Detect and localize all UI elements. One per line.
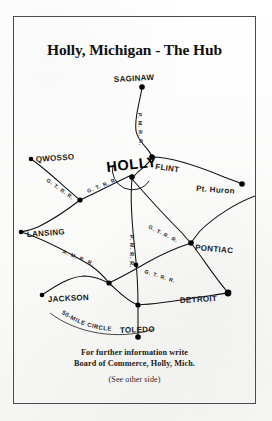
- rr-label-pm-holly-south: P. M. R. R.: [129, 235, 135, 268]
- junction-owosso-lansing: [77, 197, 82, 202]
- fifty-mile-circle-label: 50-MILE CIRCLE: [61, 309, 112, 332]
- city-label-toledo: TOLEDO: [120, 325, 155, 335]
- city-label-owosso: QWOSSO: [36, 152, 75, 164]
- city-labels: SAGINAW FLINT Pt. Huron QWOSSO LANSING P…: [27, 73, 236, 335]
- junction-mid-south: [106, 280, 111, 285]
- rail-junction-lansing: [21, 200, 80, 232]
- rr-label-gt-owosso: G. T. R. R.: [45, 177, 75, 201]
- junction-toledo-north: [135, 302, 140, 307]
- postcard-page: Holly, Michigan - The Hub: [0, 0, 272, 421]
- rr-label-gt-south-detroit: G. T. R. R.: [144, 268, 177, 284]
- rr-label-pm-saginaw-flint: P. M. R. R.: [137, 113, 144, 146]
- node-saginaw: [139, 84, 145, 90]
- node-holly: [129, 174, 135, 180]
- city-label-detroit: DETROIT: [180, 294, 218, 305]
- footer-block: For further information write Board of C…: [14, 347, 255, 385]
- map-drawing: SAGINAW FLINT Pt. Huron QWOSSO LANSING P…: [14, 65, 255, 343]
- node-detroit: [225, 290, 232, 297]
- city-label-saginaw: SAGINAW: [114, 73, 155, 84]
- rail-jackson-junction: [42, 276, 109, 295]
- node-pt-huron: [239, 181, 245, 187]
- node-toledo: [135, 334, 141, 340]
- footer-see-other-side: (See other side): [14, 374, 255, 385]
- rail-midsouth-pontiac: [109, 243, 191, 283]
- node-lansing: [19, 230, 24, 235]
- rail-pt-huron-pontiac: [191, 196, 255, 243]
- fifty-mile-circle-text: 50-MILE CIRCLE: [61, 309, 112, 332]
- railroad-labels: P. M. R. R. G. T. R. R. G. T. R. R. G. T…: [45, 113, 179, 284]
- city-label-lansing: LANSING: [27, 227, 66, 239]
- node-jackson: [40, 293, 45, 298]
- rail-lansing-junction: [21, 232, 109, 283]
- city-label-pt-huron: Pt. Huron: [196, 184, 235, 196]
- rr-label-gt-holly-west: G. T. R. R.: [86, 176, 118, 194]
- footer-line-2: Board of Commerce, Holly, Mich.: [14, 358, 255, 369]
- node-pontiac: [188, 240, 194, 246]
- city-label-flint: FLINT: [155, 162, 180, 174]
- city-label-pontiac: PONTIAC: [195, 243, 234, 255]
- rr-label-am-lansing: A. M. R. R.: [62, 248, 96, 266]
- page-title: Holly, Michigan - The Hub: [14, 41, 255, 59]
- city-label-holly: HOLLY: [106, 154, 158, 175]
- node-owosso: [29, 157, 34, 162]
- city-label-jackson: JACKSON: [48, 293, 90, 304]
- footer-line-1: For further information write: [14, 347, 255, 358]
- rr-label-gt-holly-pontiac: G. T. R. R.: [148, 224, 180, 244]
- card-content: Holly, Michigan - The Hub: [14, 17, 255, 403]
- railroad-hub-map: SAGINAW FLINT Pt. Huron QWOSSO LANSING P…: [14, 65, 255, 343]
